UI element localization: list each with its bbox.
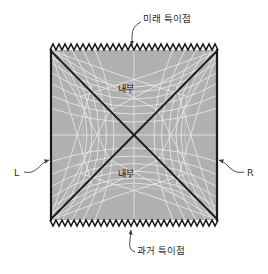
interior-region-lower-label: 내부 [118, 170, 134, 179]
future-singularity-zigzag [50, 44, 218, 50]
diagram-canvas [0, 0, 268, 274]
future-singularity-leader [132, 22, 141, 45]
left-region-label: L [14, 168, 19, 178]
right-region-leader [219, 160, 244, 173]
right-region-label: R [247, 168, 254, 178]
penrose-diagram: 미래 특이점 과거 특이점 내부 내부 L R [0, 0, 268, 274]
past-singularity-label: 과거 특이점 [137, 246, 185, 256]
past-singularity-zigzag [50, 220, 218, 226]
interior-region-upper-label: 내부 [118, 85, 134, 94]
left-region-leader [24, 160, 49, 173]
future-singularity-label: 미래 특이점 [143, 14, 191, 24]
past-singularity-leader [130, 230, 135, 252]
